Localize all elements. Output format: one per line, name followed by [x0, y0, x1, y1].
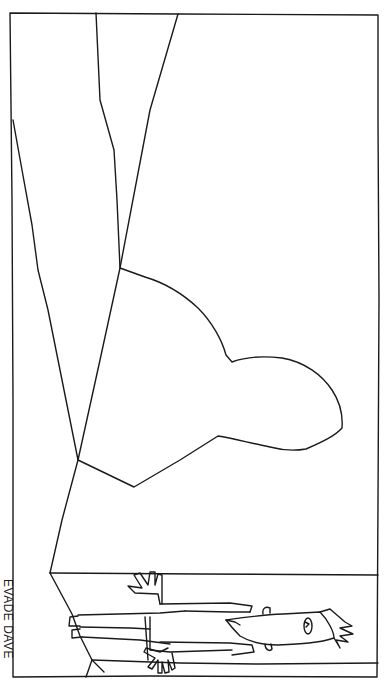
wall-line-a	[96, 13, 120, 268]
cartoon-caption: EVADE DAVE	[1, 559, 15, 679]
wall-line-b	[50, 14, 178, 573]
cartoon-drawing	[0, 0, 384, 681]
head-outline	[226, 612, 334, 645]
leg-bottom	[82, 637, 170, 644]
leg-mid	[80, 627, 150, 629]
eye	[304, 618, 312, 634]
eye-pupil	[305, 622, 309, 627]
ear-top	[263, 607, 270, 614]
sleeve-bottom	[160, 642, 254, 655]
floor-line-top	[50, 573, 378, 575]
lying-man	[69, 572, 353, 673]
sleeve-top	[160, 603, 252, 612]
floor-line-bottom	[92, 660, 378, 664]
floor-line-diagonal	[50, 573, 104, 672]
torso-top	[185, 611, 250, 612]
shoe-bottom	[72, 629, 82, 638]
torso-bottom	[150, 617, 232, 652]
hand-top	[128, 572, 162, 604]
panel-frame	[10, 13, 379, 677]
floor-line-corner	[86, 660, 92, 677]
wall-line-c	[13, 120, 78, 460]
leg-top	[78, 611, 185, 615]
hair-spikes	[320, 609, 353, 648]
blob-shape	[78, 268, 342, 487]
